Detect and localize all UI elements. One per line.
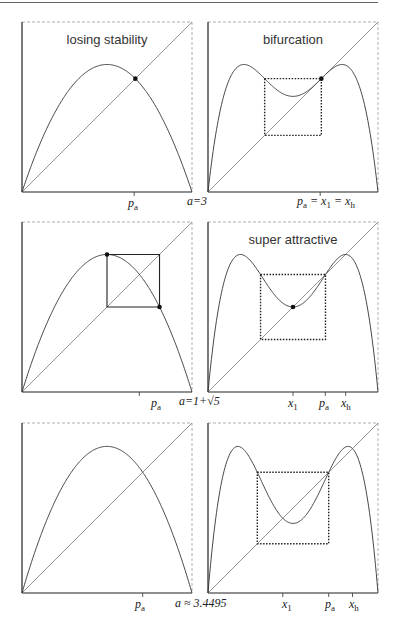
map-curve: [208, 254, 378, 392]
panel-title: losing stability: [67, 32, 148, 47]
diagonal-line: [208, 22, 378, 192]
tick-label-pa-br: pa: [325, 597, 335, 613]
page-top-rule: [0, 2, 378, 3]
tick-label-x1-mr: x1: [288, 396, 298, 412]
diagonal-line: [22, 22, 192, 192]
tick-label-xh-mr: xh: [341, 396, 351, 412]
tick-label-pa-bl: pa: [135, 597, 145, 613]
panel-super-attractive: super attractive: [208, 222, 378, 392]
fixed-point-dot: [319, 76, 324, 81]
a-value-label-3: a ≈ 3.4495: [175, 596, 227, 611]
orbit-point: [157, 305, 162, 310]
panel-period-doubling-second-iterate: [208, 423, 378, 593]
tick-label-xh-br: xh: [349, 597, 359, 613]
tick-label-pa-mr: pa: [319, 396, 329, 412]
tick-label-pa-x1-xh-tr: pa = x1 = xh: [297, 194, 355, 210]
map-curve: [22, 446, 192, 593]
panel-period2-cycle: [22, 222, 192, 392]
diagonal-line: [22, 423, 192, 593]
panel-title: super attractive: [249, 232, 338, 247]
tick-label-pa-tl: pa: [128, 196, 138, 212]
map-curve: [22, 65, 192, 193]
panel-losing-stability: losing stability: [22, 22, 192, 192]
panel-bifurcation: bifurcation: [208, 22, 378, 192]
a-value-label-2: a=1+√5: [179, 394, 220, 409]
orbit-point: [105, 252, 110, 257]
tick-label-x1-br: x1: [282, 597, 292, 613]
a-value-label-1: a=3: [187, 194, 207, 209]
map-curve: [208, 446, 378, 593]
map-curve: [208, 65, 378, 193]
tick-label-pa-ml: pa: [151, 396, 161, 412]
superstable-point: [291, 305, 296, 310]
fixed-point-dot: [133, 76, 138, 81]
panel-title: bifurcation: [263, 32, 323, 47]
panel-period-doubling-map: [22, 423, 192, 593]
